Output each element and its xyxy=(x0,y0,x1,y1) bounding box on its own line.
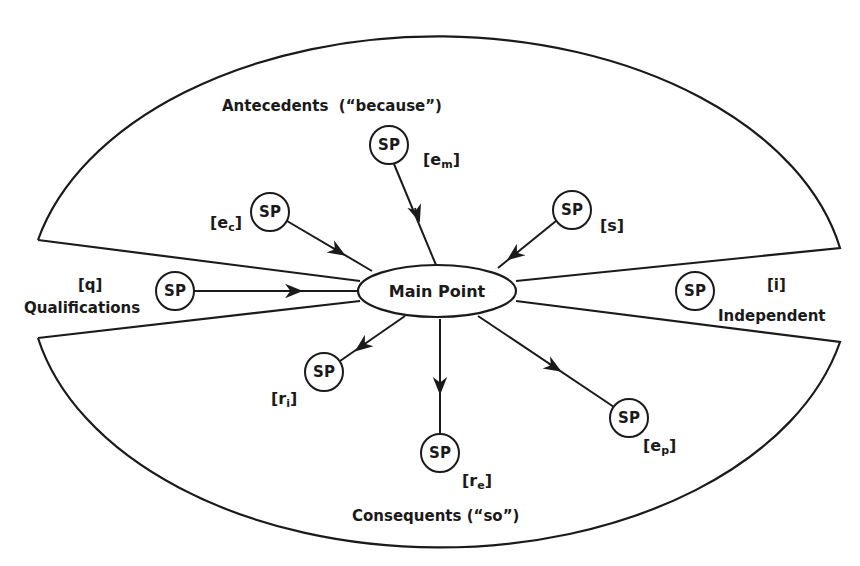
sp-node-em: SP xyxy=(370,126,408,164)
argument-diagram: Main Point SP SP SP SP SP SP SP SP xyxy=(0,0,860,566)
svg-text:SP: SP xyxy=(561,201,583,219)
main-point-node: Main Point xyxy=(358,265,516,317)
main-point-label: Main Point xyxy=(389,282,486,301)
consequents-label: Consequents (“so”) xyxy=(352,507,519,525)
tag-ec: [ec] xyxy=(210,213,242,234)
arrow-ec-to-main xyxy=(287,221,372,271)
sp-node-s: SP xyxy=(553,191,591,229)
svg-text:SP: SP xyxy=(429,444,451,462)
arrow-main-to-ri xyxy=(340,316,405,361)
svg-text:SP: SP xyxy=(378,136,400,154)
sp-node-i: SP xyxy=(676,272,714,310)
sp-node-ep: SP xyxy=(610,399,648,437)
sp-node-re: SP xyxy=(421,434,459,472)
independent-tag: [i] xyxy=(767,276,786,294)
independent-label: Independent xyxy=(718,307,826,325)
qualifications-label: Qualifications xyxy=(24,299,140,317)
sp-node-ri: SP xyxy=(305,353,343,391)
tag-ep: [ep] xyxy=(643,436,676,457)
svg-text:SP: SP xyxy=(618,409,640,427)
qualifications-tag: [q] xyxy=(78,276,102,294)
sp-node-q: SP xyxy=(156,272,194,310)
tag-s: [s] xyxy=(600,216,624,235)
svg-text:SP: SP xyxy=(164,282,186,300)
svg-text:SP: SP xyxy=(259,203,281,221)
arrow-em-to-main xyxy=(394,164,436,265)
arrow-main-to-ep xyxy=(478,316,614,407)
svg-text:SP: SP xyxy=(684,282,706,300)
tag-em: [em] xyxy=(423,150,460,171)
svg-text:SP: SP xyxy=(313,363,335,381)
tag-ri: [ri] xyxy=(271,389,297,410)
sp-node-ec: SP xyxy=(251,193,289,231)
antecedents-label: Antecedents (“because”) xyxy=(222,97,442,115)
tag-re: [re] xyxy=(462,471,492,492)
arrow-s-to-main xyxy=(498,221,556,268)
